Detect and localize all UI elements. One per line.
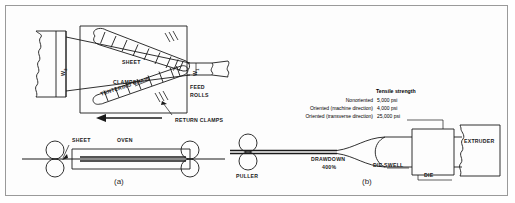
puller-rolls <box>239 134 257 170</box>
label-puller: PULLER <box>236 174 258 179</box>
sheet-leader <box>62 145 69 160</box>
caption-panel-b: (b) <box>362 178 372 186</box>
tensile-row-2-value: 25,000 psi <box>377 113 400 119</box>
w2-subscript: 2 <box>63 68 68 70</box>
tensile-table-header: Tensile strength <box>376 88 416 94</box>
label-width-w2: W2 <box>61 68 68 76</box>
caption-panel-a: (a) <box>114 178 124 186</box>
w1-subscript: 1 <box>195 68 200 70</box>
tentering-chain-lower <box>93 66 188 105</box>
clamp-hatch-lower <box>155 91 168 102</box>
die-block <box>412 129 454 175</box>
table-to-die-leader <box>407 120 443 129</box>
product-web-block <box>36 31 66 97</box>
tensile-row-1-name: Oriented (machine direction) <box>263 105 373 111</box>
direction-arrow <box>96 114 162 122</box>
label-drawdown-value: 400% <box>322 165 336 170</box>
extruder-block <box>460 125 500 176</box>
label-sheet-side: SHEET <box>72 138 91 143</box>
label-feed-rolls-line1: FEED <box>190 85 205 90</box>
label-oven: OVEN <box>117 138 133 143</box>
label-die: DIE <box>424 173 433 178</box>
label-drawdown: DRAWDOWN <box>311 157 345 162</box>
label-sheet-top: SHEET <box>122 60 141 65</box>
tensile-row-1-value: 4,000 psi <box>377 105 397 111</box>
tensile-row-0-name: Nonoriented <box>263 97 373 103</box>
clamp-hatch-upper <box>165 31 178 42</box>
w2-symbol: W <box>60 71 66 76</box>
tensile-row-0-value: 5,000 psi <box>377 97 397 103</box>
label-extruder: EXTRUDER <box>464 139 495 144</box>
label-width-w1: W1 <box>193 68 200 76</box>
label-feed-rolls-line2: ROLLS <box>190 93 209 98</box>
label-die-swell: DIE SWELL <box>373 163 404 168</box>
figure-root: SHEET CLAMPS TENTERING CHAIN RETURN CLAM… <box>0 0 515 203</box>
w1-symbol: W <box>192 71 198 76</box>
label-return-clamps: RETURN CLAMPS <box>175 118 223 123</box>
tensile-row-2-name: Oriented (transverse direction) <box>263 113 373 119</box>
